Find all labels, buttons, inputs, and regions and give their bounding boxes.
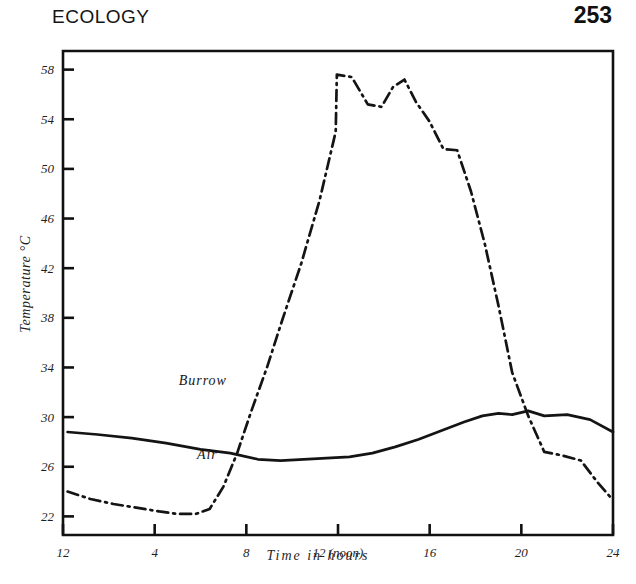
series-label-air: Air [196, 447, 218, 462]
figure-container: Temperature °C Time in hours 22263034384… [0, 40, 636, 584]
y-axis-tick-label: 30 [40, 410, 55, 425]
plot-frame [63, 51, 613, 535]
y-axis-tick-label: 58 [41, 62, 55, 77]
page-title: ECOLOGY [52, 6, 149, 28]
temperature-time-line-chart: 22263034384246505458124812 (noon)162024B… [0, 40, 636, 584]
y-axis-tick-label: 50 [41, 161, 55, 176]
y-axis-tick-label: 22 [41, 509, 55, 524]
x-axis-title: Time in hours [0, 548, 636, 564]
series-label-burrow: Burrow [179, 373, 227, 388]
y-axis-tick-label: 34 [40, 360, 55, 375]
series-line-burrow [68, 411, 613, 461]
y-axis-tick-label: 42 [41, 261, 55, 276]
series-line-air [68, 75, 613, 514]
y-axis-title: Temperature °C [18, 224, 34, 344]
y-axis-tick-label: 26 [41, 459, 55, 474]
y-axis-tick-label: 46 [41, 211, 55, 226]
y-axis-tick-label: 54 [41, 112, 55, 127]
page-number: 253 [574, 2, 612, 29]
y-axis-tick-label: 38 [40, 310, 55, 325]
